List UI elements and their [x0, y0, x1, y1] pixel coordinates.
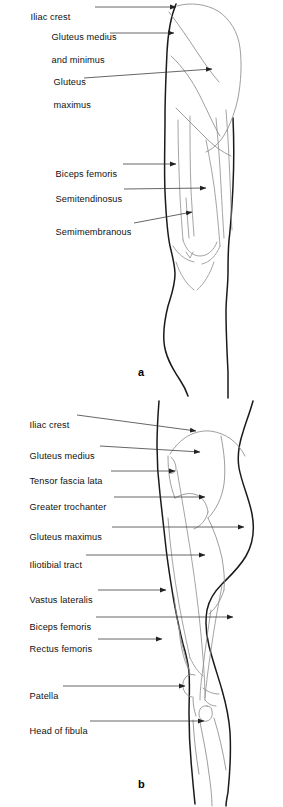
gluteal-contours-a	[169, 4, 241, 156]
panel-letter-b: b	[138, 778, 145, 790]
label-semimembranous-a: Semimembranous	[45, 216, 131, 250]
label-iliotibial-tract-b: Iliotibial tract	[19, 549, 82, 583]
body-outline-b	[157, 401, 253, 806]
panel-letter-a: a	[138, 366, 144, 378]
label-rectus-femoris-b: Rectus femoris	[19, 633, 92, 667]
label-semitendinosus-a: Semitendinosus	[45, 183, 122, 217]
body-outline-a	[164, 4, 234, 398]
figure-panel-b: Iliac crest Gluteus medius Tensor fascia…	[0, 400, 283, 807]
hip-contours-b	[168, 431, 245, 614]
leader-iliac-crest	[77, 415, 196, 431]
label-head-of-fibula-b: Head of fibula	[19, 715, 88, 749]
label-iliac-crest-b: Iliac crest	[19, 409, 69, 443]
label-patella-b: Patella	[19, 680, 58, 714]
leader-semimembranous	[134, 212, 192, 223]
leader-gluteus-medius	[100, 446, 200, 452]
figure-panel-a: Iliac crest Gluteus medius and minimus G…	[0, 0, 283, 400]
leader-semitendinosus	[124, 188, 206, 189]
label-gluteus-maximus-a: Gluteus maximus	[43, 66, 91, 123]
